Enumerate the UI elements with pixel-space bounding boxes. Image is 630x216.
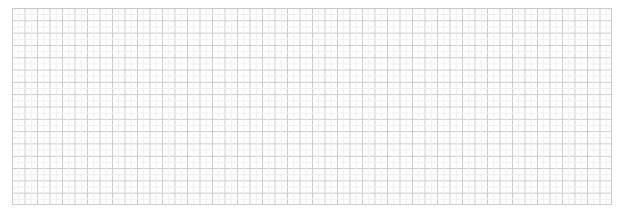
graph-paper-grid [12, 8, 612, 205]
canvas [0, 0, 630, 216]
